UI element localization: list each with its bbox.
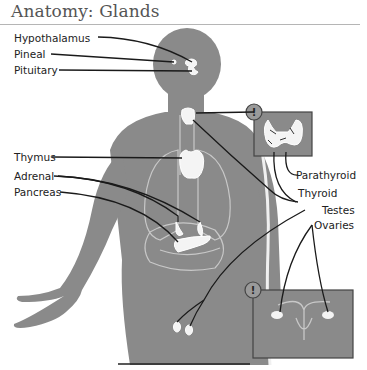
ovary-right	[322, 311, 334, 319]
label-parathyroid: Parathyroid	[296, 169, 356, 181]
anatomy-illustration: ! !	[0, 0, 367, 370]
thyroid-gland	[182, 108, 195, 124]
label-adrenal: Adrenal	[14, 170, 54, 182]
label-pituitary: Pituitary	[14, 64, 58, 76]
ovary-left	[271, 311, 283, 319]
label-thymus: Thymus	[14, 151, 56, 163]
label-thyroid: Thyroid	[298, 187, 337, 199]
label-hypothalamus: Hypothalamus	[14, 32, 90, 44]
testis-left	[174, 322, 181, 332]
testis-right	[186, 325, 193, 335]
exclamation-glyph-ovaries: !	[251, 285, 256, 296]
ovaries-inset	[253, 290, 353, 358]
thyroid-inset	[254, 112, 312, 156]
label-testes: Testes	[322, 204, 355, 216]
label-ovaries: Ovaries	[314, 219, 354, 231]
label-pineal: Pineal	[14, 48, 46, 60]
thymus-gland	[180, 150, 204, 178]
label-pancreas: Pancreas	[14, 186, 61, 198]
